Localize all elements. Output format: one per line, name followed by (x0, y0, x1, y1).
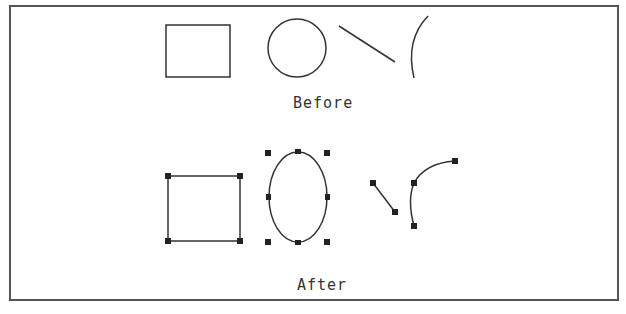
selection-handle[interactable] (392, 209, 398, 215)
before-shapes (166, 16, 428, 78)
selection-handle[interactable] (265, 239, 271, 245)
selection-handle[interactable] (452, 158, 458, 164)
selection-handle[interactable] (165, 238, 171, 244)
before-circle (268, 19, 326, 77)
selection-handle[interactable] (411, 180, 417, 186)
selection-handle[interactable] (411, 223, 417, 229)
selection-handle[interactable] (324, 239, 330, 245)
rectangle-handles (165, 173, 243, 244)
drawing-canvas (0, 0, 626, 314)
before-caption: Before (293, 94, 353, 112)
selection-handle[interactable] (325, 194, 330, 200)
after-arc (411, 161, 456, 226)
selection-handle[interactable] (265, 150, 271, 156)
after-caption: After (297, 276, 347, 294)
selection-handle[interactable] (237, 238, 243, 244)
after-line (373, 183, 395, 212)
selection-handle[interactable] (295, 240, 301, 245)
ellipse-handles (265, 149, 330, 245)
arc-handles (411, 158, 458, 229)
selection-handle[interactable] (324, 150, 330, 156)
after-ellipse (269, 152, 327, 242)
before-rectangle (166, 25, 230, 77)
selection-handle[interactable] (295, 149, 301, 154)
before-line (339, 26, 395, 62)
before-arc (411, 16, 428, 78)
after-rectangle (168, 176, 240, 241)
selection-handle[interactable] (266, 194, 271, 200)
selection-handle[interactable] (237, 173, 243, 179)
selection-handle[interactable] (165, 173, 171, 179)
selection-handle[interactable] (370, 180, 376, 186)
